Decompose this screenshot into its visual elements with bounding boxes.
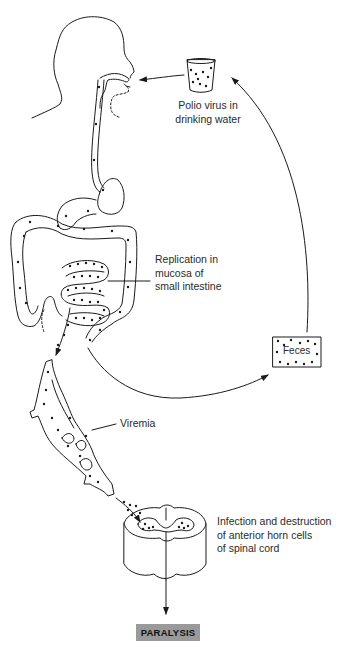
label-line: drinking water (170, 113, 246, 127)
label-polio-virus-in-water: Polio virus in drinking water (170, 99, 246, 126)
label-line: Replication in (155, 253, 222, 267)
human-head-figure (32, 17, 134, 118)
label-feces: Feces (283, 344, 310, 358)
label-line: Infection and destruction (217, 515, 331, 529)
label-line: Polio virus in (170, 99, 246, 113)
label-viremia: Viremia (120, 417, 155, 431)
polio-pathogenesis-diagram: Polio virus in drinking water Replicatio… (0, 0, 349, 651)
arrow-intestine-to-blood (56, 308, 70, 355)
label-line: mucosa of (155, 267, 222, 281)
label-spinal-cord-infection: Infection and destruction of anterior ho… (217, 515, 331, 556)
label-line: of anterior horn cells (217, 529, 331, 543)
label-line: small intestine (155, 280, 222, 294)
label-line: of spinal cord (217, 542, 331, 556)
drinking-water-glass (187, 59, 215, 93)
arrow-water-to-mouth (140, 75, 184, 80)
leader-viremia (92, 424, 116, 430)
esophagus (92, 80, 104, 192)
label-replication: Replication in mucosa of small intestine (155, 253, 222, 294)
paralysis-outcome-box: PARALYSIS (136, 624, 200, 641)
arrow-intestine-to-feces (88, 348, 268, 398)
stomach (57, 179, 124, 230)
